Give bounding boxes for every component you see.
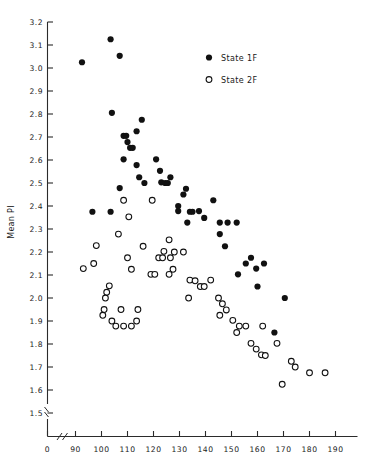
legend-marker-open-circle — [206, 77, 212, 83]
data-point — [93, 243, 99, 249]
y-tick-label: 2.2 — [29, 248, 43, 257]
data-point — [117, 53, 123, 59]
data-point — [153, 156, 159, 162]
x-axis: 090100110120130140150160170180190 — [45, 431, 358, 454]
data-point — [217, 219, 223, 225]
data-point — [139, 117, 145, 123]
y-tick-label: 3.1 — [29, 41, 43, 50]
data-point — [80, 266, 86, 272]
data-point — [274, 340, 280, 346]
y-tick-label: 2.5 — [29, 179, 43, 188]
data-point — [282, 295, 288, 301]
x-tick-marks — [48, 431, 336, 437]
data-point — [79, 59, 85, 65]
data-point — [108, 209, 114, 215]
y-axis: 1.51.61.71.81.92.02.12.22.32.42.52.62.72… — [29, 18, 53, 436]
data-point — [279, 381, 285, 387]
data-point — [243, 323, 249, 329]
data-point — [160, 255, 166, 261]
data-point — [167, 174, 173, 180]
data-point — [130, 145, 136, 151]
y-tick-label: 1.6 — [29, 386, 43, 395]
x-tick-label: 90 — [70, 445, 81, 454]
data-point — [217, 312, 223, 318]
x-tick-label: 180 — [302, 445, 318, 454]
series-state-2f-points — [80, 197, 328, 387]
data-point — [271, 329, 277, 335]
plot-canvas: 1.51.61.71.81.92.02.12.22.32.42.52.62.72… — [0, 0, 377, 476]
y-tick-label: 2.4 — [29, 202, 43, 211]
data-point — [225, 219, 231, 225]
data-point — [121, 197, 127, 203]
data-point — [141, 180, 147, 186]
data-point — [175, 208, 181, 214]
data-point — [254, 283, 260, 289]
y-tick-labels: 1.51.61.71.81.92.02.12.22.32.42.52.62.72… — [29, 18, 43, 418]
data-point — [183, 186, 189, 192]
data-point — [201, 215, 207, 221]
x-tick-label: 160 — [250, 445, 266, 454]
y-tick-label: 3.2 — [29, 18, 43, 27]
data-point — [260, 323, 266, 329]
data-point — [134, 318, 140, 324]
data-point — [234, 330, 240, 336]
data-point — [171, 249, 177, 255]
data-point — [170, 266, 176, 272]
data-point — [220, 301, 226, 307]
data-point — [89, 209, 95, 215]
data-point — [222, 243, 228, 249]
y-tick-label: 2.1 — [29, 271, 43, 280]
data-point — [121, 156, 127, 162]
data-point — [100, 312, 106, 318]
x-tick-label: 120 — [146, 445, 162, 454]
data-point — [123, 133, 129, 139]
data-point — [234, 219, 240, 225]
data-point — [201, 284, 207, 290]
data-point — [129, 266, 135, 272]
data-point — [108, 36, 114, 42]
data-point — [243, 260, 249, 266]
x-tick-label: 150 — [224, 445, 240, 454]
x-tick-label: 0 — [45, 445, 50, 454]
y-tick-label: 2.6 — [29, 156, 43, 165]
data-point — [135, 307, 141, 313]
x-tick-label: 110 — [120, 445, 136, 454]
y-axis-title: Mean PI — [7, 205, 16, 239]
data-point — [129, 323, 135, 329]
data-point — [235, 271, 241, 277]
data-point — [248, 340, 254, 346]
data-point — [181, 249, 187, 255]
y-tick-marks — [48, 22, 54, 413]
data-point — [253, 265, 259, 271]
data-point — [101, 307, 107, 313]
data-point — [261, 260, 267, 266]
y-tick-label: 3.0 — [29, 64, 43, 73]
data-point — [210, 197, 216, 203]
data-point — [196, 208, 202, 214]
x-tick-labels: 090100110120130140150160170180190 — [45, 445, 344, 454]
y-tick-label: 1.5 — [29, 409, 43, 418]
data-point — [208, 277, 214, 283]
data-point — [253, 346, 259, 352]
data-point — [166, 237, 172, 243]
y-tick-label: 2.8 — [29, 110, 43, 119]
data-point — [236, 323, 242, 329]
data-point — [126, 214, 132, 220]
data-point — [118, 307, 124, 313]
x-tick-label: 170 — [276, 445, 292, 454]
data-point — [292, 364, 298, 370]
data-point — [103, 295, 109, 301]
data-point — [189, 209, 195, 215]
data-point — [166, 271, 172, 277]
legend-label-state-2f: State 2F — [221, 76, 258, 85]
data-point — [168, 255, 174, 261]
data-point — [322, 370, 328, 376]
data-point — [91, 261, 97, 267]
data-point — [109, 110, 115, 116]
y-tick-label: 2.7 — [29, 133, 43, 142]
legend-marker-filled-circle — [206, 54, 212, 60]
x-tick-label: 140 — [198, 445, 214, 454]
data-point — [124, 139, 130, 145]
data-point — [116, 231, 122, 237]
y-axis-break-icon — [45, 407, 49, 417]
